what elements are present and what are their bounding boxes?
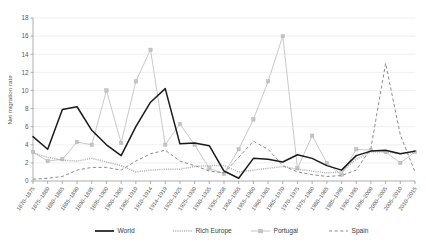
data-point-marker [75,140,78,143]
grid-lines [33,18,415,163]
net-migration-rate-line-chart: 024681012141618 Net migration rate 1870–… [0,0,426,245]
series-line-portugal [33,36,415,175]
data-point-marker [252,118,255,121]
y-axis-tick-label: 18 [21,14,29,21]
data-point-marker [399,161,402,164]
data-point-marker [46,159,49,162]
legend-label-rich-europe: Rich Europe [196,227,233,235]
legend-label-world: World [118,227,135,234]
x-axis-tick-labels: 1870–18751875–18801880–18851885–18901890… [15,181,418,212]
data-point-marker [105,89,108,92]
legend-label-portugal: Portugal [274,227,299,235]
y-axis-title-group: Net migration rate [6,75,13,125]
chart-container: 024681012141618 Net migration rate 1870–… [0,0,426,245]
data-point-marker [281,34,284,37]
series-line-spain [33,63,415,179]
legend-label-spain: Spain [352,227,369,235]
data-point-marker [355,148,358,151]
series-line-world [33,89,415,179]
data-point-marker [266,80,269,83]
y-axis-ticks: 024681012141618 [21,14,33,184]
y-axis-tick-label: 16 [21,32,29,39]
data-point-marker [325,161,328,164]
data-point-marker [178,122,181,125]
series-lines [31,34,416,179]
y-axis-tick-label: 8 [25,105,29,112]
data-point-marker [164,143,167,146]
data-point-marker [237,148,240,151]
y-axis-tick-label: 6 [25,123,29,130]
data-point-marker [149,48,152,51]
data-point-marker [119,141,122,144]
data-point-marker [310,134,313,137]
data-point-marker [134,80,137,83]
y-axis-tick-label: 14 [21,51,29,58]
data-point-marker [208,167,211,170]
legend-marker-portugal [259,229,263,233]
chart-legend: WorldRich EuropePortugalSpain [95,227,369,235]
y-axis-tick-label: 12 [21,69,29,76]
y-axis-title: Net migration rate [6,75,13,125]
y-axis-tick-label: 0 [25,177,29,184]
y-axis-tick-label: 4 [25,141,29,148]
data-point-marker [90,143,93,146]
x-axis-line-group [33,18,415,181]
y-axis-tick-label: 10 [21,87,29,94]
y-axis-tick-label: 2 [25,159,29,166]
